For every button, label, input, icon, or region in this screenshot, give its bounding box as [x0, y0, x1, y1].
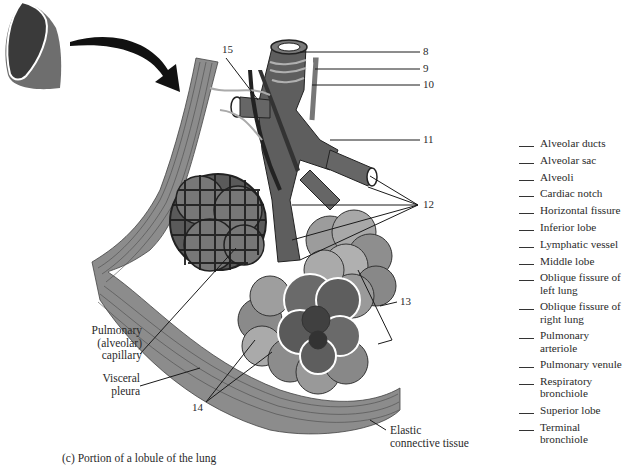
label-number-15: 15	[222, 43, 233, 55]
label-line: pleura	[100, 385, 140, 398]
answer-blank[interactable]	[519, 404, 534, 414]
label-number-11: 11	[423, 133, 434, 145]
lung-thumbnail-icon	[5, 2, 61, 89]
answer-blank[interactable]	[519, 171, 534, 181]
answer-blank[interactable]	[519, 300, 534, 310]
word-bank-item: Alveolar ducts	[519, 137, 627, 149]
label-line: Visceral	[100, 372, 140, 385]
word-bank-label: Superior lobe	[540, 404, 601, 416]
label-number-8: 8	[423, 45, 429, 57]
word-bank-item: Superior lobe	[519, 404, 627, 416]
answer-blank[interactable]	[519, 238, 534, 248]
word-bank-label: Lymphatic vessel	[540, 238, 618, 250]
label-line: (alveolar)	[62, 337, 142, 350]
word-bank-label: Alveoli	[540, 171, 574, 183]
answer-blank[interactable]	[519, 271, 534, 281]
word-bank-label: Horizontal fissure	[540, 204, 620, 216]
answer-blank[interactable]	[519, 221, 534, 231]
figure-caption: (c) Portion of a lobule of the lung	[62, 452, 216, 464]
word-bank-label: Inferior lobe	[540, 221, 596, 233]
answer-blank[interactable]	[519, 358, 534, 368]
word-bank-item: Horizontal fissure	[519, 204, 627, 216]
word-bank-item: Oblique fissure of right lung	[519, 300, 627, 324]
capillary-network-cluster	[170, 174, 266, 272]
word-bank-item: Respiratory bronchiole	[519, 375, 627, 399]
label-number-13: 13	[400, 295, 411, 307]
label-line: capillary	[62, 349, 142, 362]
label-line: Elastic	[390, 424, 469, 437]
answer-blank[interactable]	[519, 137, 534, 147]
word-bank-item: Lymphatic vessel	[519, 238, 627, 250]
answer-blank[interactable]	[519, 204, 534, 214]
label-visceral-pleura: Visceral pleura	[100, 372, 140, 397]
word-bank-label: Pulmonary venule	[540, 358, 622, 370]
word-bank-label: Cardiac notch	[540, 187, 602, 199]
word-bank-item: Oblique fissure of left lung	[519, 271, 627, 295]
answer-blank[interactable]	[519, 375, 534, 385]
word-bank: Alveolar ducts Alveolar sac Alveoli Card…	[519, 137, 627, 450]
lung-lobule-diagram: 8 9 10 11 12 13 14 15 Pulmonary (alveola…	[0, 0, 627, 468]
answer-blank[interactable]	[519, 421, 534, 431]
word-bank-label: Pulmonary arteriole	[540, 329, 627, 353]
word-bank-label: Respiratory bronchiole	[540, 375, 627, 399]
alveolar-sac-lower	[238, 274, 368, 394]
word-bank-item: Alveolar sac	[519, 154, 627, 166]
answer-blank[interactable]	[519, 329, 534, 339]
label-number-9: 9	[423, 62, 429, 74]
answer-blank[interactable]	[519, 255, 534, 265]
word-bank-item: Middle lobe	[519, 255, 627, 267]
label-number-10: 10	[423, 78, 434, 90]
answer-blank[interactable]	[519, 154, 534, 164]
word-bank-label: Oblique fissure of left lung	[540, 271, 627, 295]
curved-arrow-icon	[70, 37, 180, 92]
word-bank-item: Inferior lobe	[519, 221, 627, 233]
word-bank-label: Terminal bronchiole	[540, 421, 627, 445]
word-bank-label: Alveolar sac	[540, 154, 596, 166]
label-number-14: 14	[192, 401, 203, 413]
label-pulmonary-capillary: Pulmonary (alveolar) capillary	[62, 324, 142, 362]
word-bank-item: Pulmonary venule	[519, 358, 627, 370]
word-bank-item: Alveoli	[519, 171, 627, 183]
word-bank-label: Alveolar ducts	[540, 137, 606, 149]
answer-blank[interactable]	[519, 187, 534, 197]
label-number-12: 12	[423, 198, 434, 210]
label-elastic-connective-tissue: Elastic connective tissue	[390, 424, 469, 449]
word-bank-item: Cardiac notch	[519, 187, 627, 199]
label-line: connective tissue	[390, 437, 469, 450]
word-bank-label: Oblique fissure of right lung	[540, 300, 627, 324]
label-line: Pulmonary	[62, 324, 142, 337]
word-bank-label: Middle lobe	[540, 255, 594, 267]
word-bank-item: Pulmonary arteriole	[519, 329, 627, 353]
word-bank-item: Terminal bronchiole	[519, 421, 627, 445]
